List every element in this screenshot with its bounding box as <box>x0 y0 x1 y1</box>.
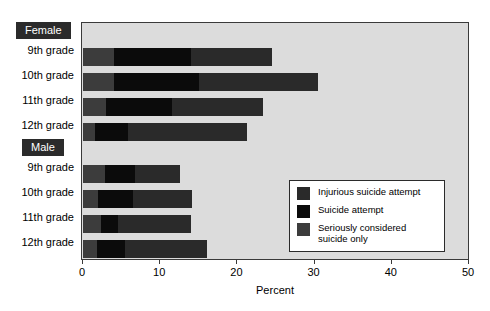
x-axis-tick-20 <box>236 260 237 264</box>
bar-segment-seriously-considered-suicide-only <box>83 190 98 208</box>
bar-segment-seriously-considered-suicide-only <box>83 165 105 183</box>
x-axis-tick-40 <box>391 260 392 264</box>
legend-swatch-icon-injurious <box>297 187 310 200</box>
x-axis-tick-10 <box>159 260 160 264</box>
bar-segment-suicide-attempt <box>105 165 135 183</box>
x-axis-tick-label-40: 40 <box>385 266 397 278</box>
x-axis-tick-0 <box>82 260 83 264</box>
bar-segment-injurious-suicide-attempt <box>172 98 263 116</box>
bar-segment-seriously-considered-suicide-only <box>83 98 106 116</box>
row-label-male-12th: 12th grade <box>21 236 74 248</box>
bar-female-11th-grade <box>83 98 263 116</box>
bar-segment-injurious-suicide-attempt <box>133 190 192 208</box>
bar-segment-suicide-attempt <box>114 73 199 91</box>
bar-segment-seriously-considered-suicide-only <box>83 48 114 66</box>
group-label-male: Male <box>22 139 64 156</box>
x-axis-tick-label-10: 10 <box>153 266 165 278</box>
legend-label-attempt: Suicide attempt <box>318 205 383 216</box>
bar-segment-suicide-attempt <box>97 240 126 258</box>
bar-segment-suicide-attempt <box>95 123 128 141</box>
row-label-male-11th: 11th grade <box>22 211 74 223</box>
bar-segment-suicide-attempt <box>106 98 172 116</box>
legend-label-injurious: Injurious suicide attempt <box>318 187 420 198</box>
x-axis-tick-50 <box>468 260 469 264</box>
bar-male-12th-grade <box>83 240 207 258</box>
x-axis-tick-label-30: 30 <box>307 266 319 278</box>
bar-male-11th-grade <box>83 215 191 233</box>
bar-segment-injurious-suicide-attempt <box>125 240 206 258</box>
bar-male-9th-grade <box>83 165 180 183</box>
row-label-male-9th: 9th grade <box>28 161 74 173</box>
bar-segment-seriously-considered-suicide-only <box>83 123 95 141</box>
x-axis-tick-label-0: 0 <box>79 266 85 278</box>
category-labels-column: Female 9th grade 10th grade 11th grade 1… <box>0 22 78 260</box>
bar-segment-injurious-suicide-attempt <box>118 215 191 233</box>
bar-segment-seriously-considered-suicide-only <box>83 240 97 258</box>
bar-segment-suicide-attempt <box>101 215 118 233</box>
bar-male-10th-grade <box>83 190 192 208</box>
row-label-female-9th: 9th grade <box>28 44 74 56</box>
row-label-female-12th: 12th grade <box>21 119 74 131</box>
bar-segment-suicide-attempt <box>114 48 191 66</box>
bar-female-12th-grade <box>83 123 247 141</box>
legend-swatch-icon-considered <box>297 223 310 236</box>
x-axis: 01020304050Percent <box>81 260 469 310</box>
legend-item-seriously-considered: Seriously considered suicide only <box>297 223 438 244</box>
bar-segment-suicide-attempt <box>98 190 133 208</box>
x-axis-tick-label-20: 20 <box>230 266 242 278</box>
bar-segment-injurious-suicide-attempt <box>135 165 181 183</box>
legend-label-considered: Seriously considered suicide only <box>318 223 438 244</box>
legend-item-suicide-attempt: Suicide attempt <box>297 205 438 218</box>
bar-female-9th-grade <box>83 48 272 66</box>
bar-segment-injurious-suicide-attempt <box>128 123 248 141</box>
row-label-female-11th: 11th grade <box>22 94 74 106</box>
x-axis-tick-30 <box>314 260 315 264</box>
legend-swatch-icon-attempt <box>297 205 310 218</box>
legend-item-injurious-suicide-attempt: Injurious suicide attempt <box>297 187 438 200</box>
x-axis-tick-label-50: 50 <box>462 266 474 278</box>
x-axis-title: Percent <box>81 284 469 296</box>
legend: Injurious suicide attempt Suicide attemp… <box>289 180 445 252</box>
bar-segment-injurious-suicide-attempt <box>191 48 272 66</box>
bar-female-10th-grade <box>83 73 318 91</box>
suicide-behavior-stacked-bar-chart: Female 9th grade 10th grade 11th grade 1… <box>0 0 490 311</box>
group-label-female: Female <box>16 22 71 39</box>
bar-segment-seriously-considered-suicide-only <box>83 73 114 91</box>
bar-segment-seriously-considered-suicide-only <box>83 215 101 233</box>
bar-segment-injurious-suicide-attempt <box>199 73 318 91</box>
row-label-male-10th: 10th grade <box>21 186 74 198</box>
row-label-female-10th: 10th grade <box>21 69 74 81</box>
